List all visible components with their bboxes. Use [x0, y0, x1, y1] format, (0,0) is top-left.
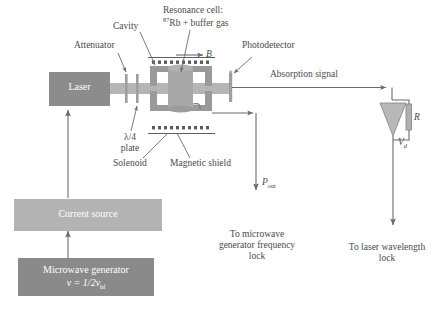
attenuator-label: Attenuator — [74, 40, 115, 51]
formula-subscript: hf — [100, 283, 105, 290]
formula-prefix: ν = 1/2ν — [67, 277, 100, 288]
solenoid-label: Solenoid — [113, 158, 147, 169]
microwave-generator-formula: ν = 1/2νhf — [18, 277, 154, 291]
quarter-wave-plate-label: λ/4 plate — [110, 132, 150, 154]
quarter-wave-line1: λ/4 — [124, 132, 136, 142]
absorption-signal-path — [232, 88, 392, 101]
resonance-cell-label: Resonance cell: 87Rb + buffer gas — [163, 5, 229, 30]
photodetector — [229, 71, 232, 102]
p-out-subscript: out — [268, 182, 276, 189]
microwave-generator-label: Microwave generator — [18, 264, 154, 277]
to-laser-lock-label: To laser wavelength lock — [331, 242, 443, 264]
photodetector-label: Photodetector — [242, 40, 295, 51]
b-field-label: B — [206, 49, 212, 60]
p-out-path — [212, 113, 256, 190]
to-microwave-line1: To microwave — [230, 229, 284, 239]
vd-subscript: d — [404, 142, 407, 149]
to-microwave-lock-label: To microwave generator frequency lock — [196, 229, 318, 263]
microwave-generator-box[interactable]: Microwave generator ν = 1/2νhf — [18, 258, 154, 296]
quarter-wave-line2: plate — [121, 143, 139, 153]
current-source-box[interactable]: Current source — [14, 199, 162, 231]
resonance-cell-line2: Rb + buffer gas — [169, 18, 228, 28]
resonance-cell — [168, 64, 193, 112]
attenuator-plate — [125, 74, 128, 103]
to-microwave-line2: generator frequency — [219, 240, 295, 250]
laser-box[interactable]: Laser — [49, 72, 110, 106]
cavity-label: Cavity — [113, 21, 138, 32]
optical-pumping-diagram: Laser Current source Microwave generator… — [0, 0, 444, 311]
to-laser-line1: To laser wavelength — [349, 242, 425, 252]
resistor-label: R — [414, 112, 420, 123]
absorption-signal-label: Absorption signal — [270, 69, 338, 80]
vd-label: Vd — [398, 137, 407, 149]
quarter-wave-plate — [136, 74, 139, 103]
current-source-label: Current source — [14, 208, 162, 221]
to-microwave-line3: lock — [249, 251, 265, 261]
laser-box-label: Laser — [49, 81, 110, 94]
amplifier — [380, 103, 406, 136]
p-out-label: Pout — [262, 177, 276, 189]
magnetic-shield-label: Magnetic shield — [170, 158, 231, 169]
resonance-cell-line1: Resonance cell: — [163, 5, 223, 15]
to-laser-line2: lock — [379, 253, 395, 263]
